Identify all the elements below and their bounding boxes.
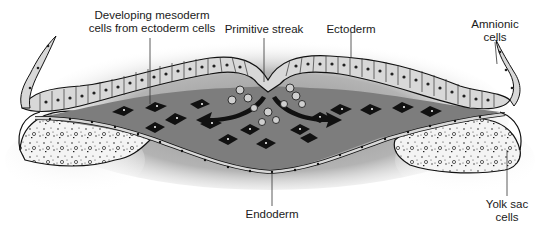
gastrulation-diagram: Developing mesoderm cells from ectoderm … [0,0,542,232]
label-developing-mesoderm: Developing mesoderm cells from ectoderm … [88,9,216,35]
label-primitive-streak: Primitive streak [222,23,306,36]
label-endoderm: Endoderm [244,208,300,221]
label-yolk-sac-cells: Yolk sac cells [484,198,530,224]
label-ectoderm: Ectoderm [326,23,376,36]
label-amnionic-cells: Amnionic cells [470,18,520,44]
